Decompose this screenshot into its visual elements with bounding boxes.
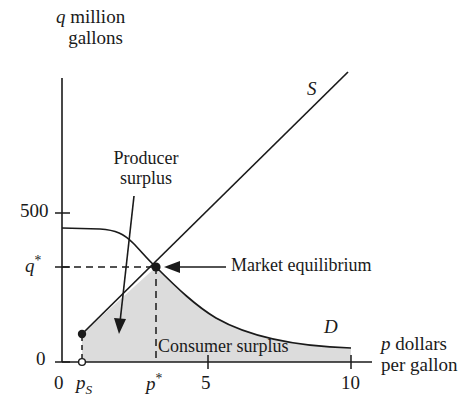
producer-surplus-annotation: Producer surplus: [98, 148, 194, 188]
y-tick-label-qstar: q*: [25, 253, 41, 277]
qstar-base: q: [25, 255, 35, 276]
x-tick-label-5: 5: [201, 372, 211, 393]
supply-curve-label: S: [307, 78, 317, 99]
y-axis-title-variable: q: [56, 6, 66, 27]
x-axis-title: p dollars per gallon: [381, 333, 458, 376]
x-tick-label-ps: pS: [76, 372, 92, 398]
y-tick-label-0: 0: [36, 348, 46, 369]
qstar-star: *: [35, 253, 42, 268]
y-axis-title-unit: million: [66, 6, 126, 27]
ps-subscript: S: [86, 382, 93, 397]
producer-surplus-line1: Producer: [114, 148, 179, 168]
market-equilibrium-arrow-head: [164, 261, 180, 273]
ps-axis-point: [79, 359, 86, 366]
x-axis-title-unit: dollars: [391, 333, 447, 354]
x-tick-label-0: 0: [54, 372, 64, 393]
x-axis-title-line2: per gallon: [381, 354, 458, 375]
equilibrium-point: [151, 262, 160, 271]
market-equilibrium-annotation: Market equilibrium: [231, 255, 371, 275]
producer-surplus-line2: surplus: [98, 168, 194, 188]
y-axis-title: q million gallons: [56, 6, 125, 49]
x-tick-label-10: 10: [341, 372, 360, 393]
x-tick-label-pstar: p*: [146, 371, 162, 395]
supply-start-point: [78, 330, 86, 338]
ps-base: p: [76, 372, 86, 393]
demand-curve-label: D: [324, 316, 338, 337]
y-axis-title-line2: gallons: [56, 27, 125, 48]
consumer-surplus-annotation: Consumer surplus: [158, 336, 289, 356]
pstar-base: p: [146, 373, 156, 394]
supply-curve: [82, 72, 348, 334]
x-axis-title-variable: p: [381, 333, 391, 354]
pstar-star: *: [156, 371, 163, 386]
y-tick-label-500: 500: [20, 200, 49, 221]
